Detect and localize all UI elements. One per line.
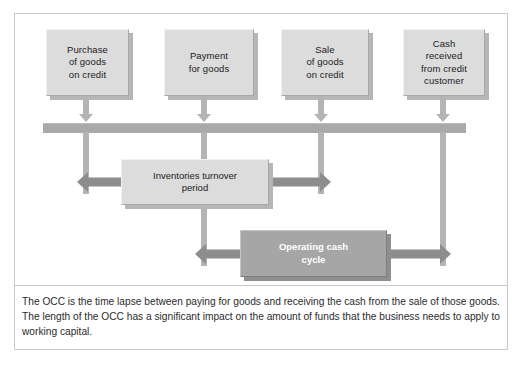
timeline-bar (43, 123, 466, 133)
event-box-label: Payment for goods (189, 50, 230, 75)
event-box-label: Cash received from credit customer (421, 38, 467, 88)
event-box-cash-received-from-credit-customer: Cash received from credit customer (403, 29, 485, 96)
period-box-label: Operating cash cycle (279, 241, 348, 266)
event-box-purchase-of-goods-on-credit: Purchase of goods on credit (46, 29, 129, 96)
flow-diagram: Purchase of goods on credit Payment for … (15, 14, 507, 285)
figure-frame: Purchase of goods on credit Payment for … (14, 13, 508, 350)
arrow-head-right-icon (440, 244, 451, 264)
event-box-label: Purchase of goods on credit (67, 44, 108, 82)
event-box-payment-for-goods: Payment for goods (164, 29, 254, 96)
figure-caption: The OCC is the time lapse between paying… (22, 294, 500, 340)
arrow-head-right-icon (320, 172, 331, 192)
period-box-label: Inventories turnover period (153, 170, 237, 195)
down-arrow-payment (201, 96, 207, 115)
down-arrow-sale (318, 96, 324, 115)
event-box-label: Sale of goods on credit (306, 44, 343, 82)
down-arrow-purchase (83, 96, 89, 115)
event-box-sale-of-goods-on-credit: Sale of goods on credit (281, 29, 369, 96)
period-box-operating-cash-cycle: Operating cash cycle (240, 230, 387, 277)
down-arrow-cash-received (440, 96, 446, 115)
caption-divider (15, 285, 507, 286)
period-box-inventories-turnover-period: Inventories turnover period (121, 159, 269, 205)
